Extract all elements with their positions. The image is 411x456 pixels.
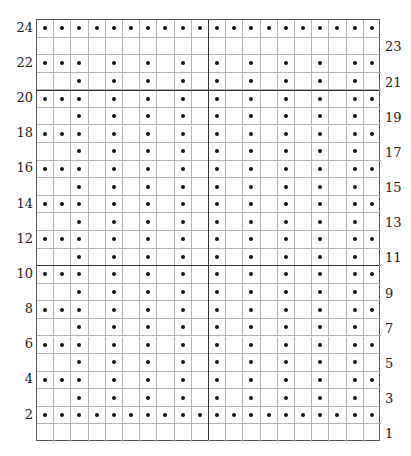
grid-cell: [37, 213, 54, 231]
grid-cell: [209, 231, 226, 249]
stitch-dot-icon: [60, 308, 64, 312]
grid-cell: [71, 424, 88, 442]
stitch-dot-icon: [335, 26, 339, 30]
grid-cell: [157, 249, 174, 267]
grid-cell: [37, 231, 54, 249]
grid-cell: [312, 284, 329, 302]
grid-cell: [192, 196, 209, 214]
grid-cell: [71, 90, 88, 108]
stitch-dot-icon: [181, 132, 185, 136]
stitch-dot-icon: [370, 378, 374, 382]
grid-cell: [312, 20, 329, 38]
grid-cell: [157, 108, 174, 126]
stitch-dot-icon: [318, 132, 322, 136]
grid-cell: [123, 337, 140, 355]
grid-cell: [243, 301, 260, 319]
stitch-dot-icon: [112, 378, 116, 382]
grid-cell: [312, 213, 329, 231]
grid-cell: [157, 126, 174, 144]
grid-cell: [106, 231, 123, 249]
grid-cell: [106, 301, 123, 319]
stitch-dot-icon: [181, 114, 185, 118]
grid-cell: [106, 161, 123, 179]
grid-cell: [89, 389, 106, 407]
grid-cell: [312, 143, 329, 161]
row-number-label: 20: [3, 91, 33, 104]
grid-cell: [261, 20, 278, 38]
grid-cell: [347, 424, 364, 442]
stitch-dot-icon: [249, 114, 253, 118]
stitch-dot-icon: [215, 272, 219, 276]
stitch-dot-icon: [215, 360, 219, 364]
grid-cell: [329, 55, 346, 73]
stitch-dot-icon: [112, 237, 116, 241]
stitch-dot-icon: [370, 237, 374, 241]
grid-cell: [54, 161, 71, 179]
grid-cell: [243, 126, 260, 144]
grid-cell: [106, 249, 123, 267]
grid-cell: [54, 108, 71, 126]
grid-cell: [329, 407, 346, 425]
grid-cell: [347, 38, 364, 56]
stitch-dot-icon: [353, 167, 357, 171]
grid-cell: [347, 20, 364, 38]
grid-cell: [295, 319, 312, 337]
stitch-dot-icon: [335, 413, 339, 417]
grid-cell: [71, 126, 88, 144]
grid-cell: [278, 337, 295, 355]
stitch-dot-icon: [284, 97, 288, 101]
grid-cell: [89, 284, 106, 302]
grid-cell: [278, 407, 295, 425]
grid-cell: [89, 126, 106, 144]
grid-cell: [226, 266, 243, 284]
grid-cell: [312, 231, 329, 249]
stitch-dot-icon: [146, 360, 150, 364]
grid-cell: [295, 266, 312, 284]
stitch-dot-icon: [215, 220, 219, 224]
stitch-dot-icon: [181, 413, 185, 417]
stitch-dot-icon: [318, 114, 322, 118]
grid-cell: [71, 407, 88, 425]
grid-cell: [243, 389, 260, 407]
stitch-dot-icon: [318, 220, 322, 224]
stitch-dot-icon: [43, 343, 47, 347]
row-number-label: 21: [385, 76, 402, 89]
stitch-dot-icon: [181, 26, 185, 30]
grid-cell: [261, 407, 278, 425]
grid-cell: [192, 213, 209, 231]
grid-cell: [37, 161, 54, 179]
grid-cell: [278, 424, 295, 442]
stitch-dot-icon: [318, 325, 322, 329]
grid-cell: [364, 90, 381, 108]
grid-cell: [226, 73, 243, 91]
grid-cell: [54, 73, 71, 91]
grid-cell: [329, 196, 346, 214]
grid-cell: [140, 213, 157, 231]
stitch-dot-icon: [181, 237, 185, 241]
grid-cell: [175, 319, 192, 337]
grid-cell: [54, 301, 71, 319]
stitch-dot-icon: [181, 202, 185, 206]
grid-cell: [261, 126, 278, 144]
stitch-dot-icon: [146, 413, 150, 417]
stitch-dot-icon: [43, 202, 47, 206]
grid-cell: [278, 284, 295, 302]
grid-cell: [37, 55, 54, 73]
stitch-dot-icon: [249, 272, 253, 276]
stitch-dot-icon: [146, 185, 150, 189]
grid-cell: [347, 389, 364, 407]
row-number-label: 12: [3, 232, 33, 245]
stitch-dot-icon: [146, 132, 150, 136]
stitch-dot-icon: [112, 97, 116, 101]
grid-cell: [261, 213, 278, 231]
grid-cell: [226, 143, 243, 161]
grid-cell: [278, 55, 295, 73]
grid-cell: [192, 55, 209, 73]
stitch-dot-icon: [353, 343, 357, 347]
grid-cell: [54, 407, 71, 425]
grid-cell: [347, 337, 364, 355]
stitch-dot-icon: [112, 220, 116, 224]
grid-cell: [89, 231, 106, 249]
grid-cell: [192, 20, 209, 38]
grid-cell: [364, 424, 381, 442]
